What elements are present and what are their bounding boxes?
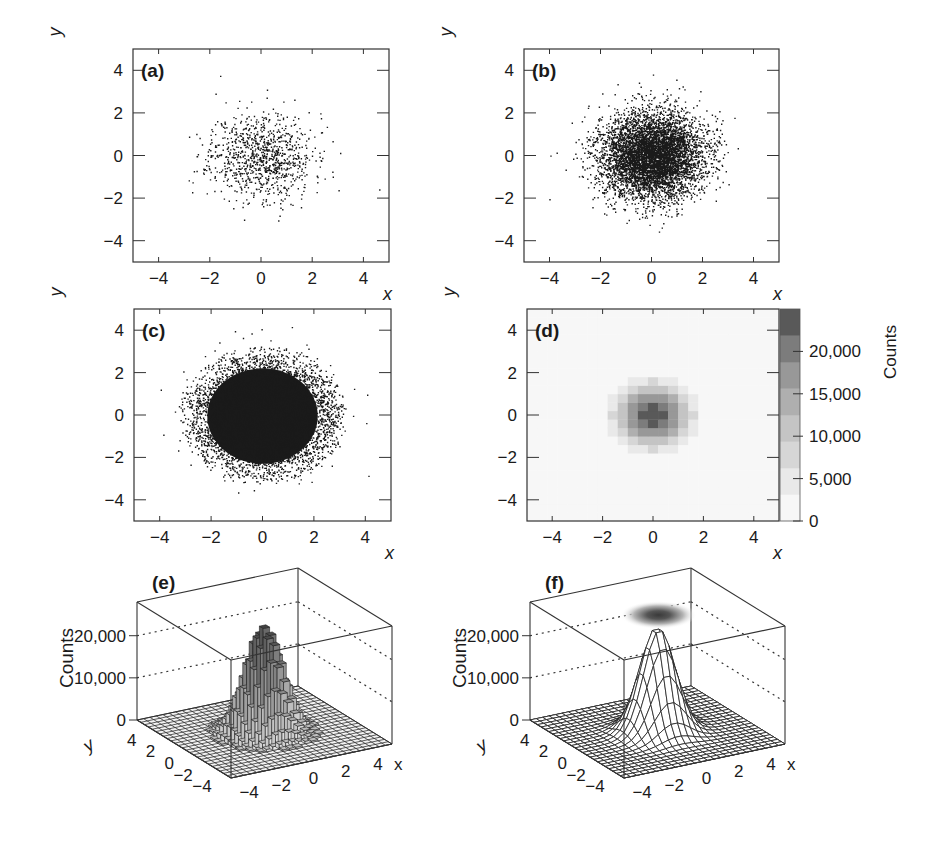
z-tick-label: 20,000 (467, 627, 519, 646)
scatter-points (189, 76, 381, 222)
y-axis-label: y (470, 734, 491, 757)
y-tick-label: −2 (566, 766, 585, 785)
x-tick-label: 0 (256, 269, 265, 288)
y-axis-label: y (77, 734, 98, 757)
y-axis-label: y (436, 27, 456, 39)
y-tick-label: −4 (495, 232, 514, 251)
plot-frame (133, 49, 389, 262)
heatmap-panel-d: −4−2024−4−2024(d)xy (439, 287, 783, 564)
x-tick-label: 0 (702, 769, 711, 788)
y-tick-label: 0 (114, 147, 123, 166)
y-tick-label: −2 (498, 448, 517, 467)
y-tick-label: 2 (539, 742, 548, 761)
y-tick-label: 4 (114, 61, 123, 80)
bar3d-panel-e: 010,00020,000Counts−4−2024x−4−2024y(e) (56, 568, 403, 802)
y-tick-label: 2 (115, 364, 124, 383)
y-tick-label: 2 (505, 104, 514, 123)
heatmap-cells (527, 309, 779, 521)
x-axis-label: x (772, 543, 783, 563)
x-tick-label: −4 (239, 783, 258, 802)
surface3d-panel-f: 010,00020,000Counts−4−2024x−4−2024y(f) (449, 568, 796, 802)
x-tick-label: 2 (309, 528, 318, 547)
x-tick-label: 2 (699, 528, 708, 547)
z-tick-label: 0 (117, 711, 126, 730)
scatter-points (549, 74, 739, 232)
x-tick-label: 2 (341, 762, 350, 781)
y-tick-label: 4 (505, 61, 514, 80)
x-tick-label: 4 (361, 528, 370, 547)
colorbar-level (780, 442, 800, 469)
x-axis-label: x (394, 755, 403, 774)
y-tick-label: 0 (508, 406, 517, 425)
colorbar-tick-label: 10,000 (809, 427, 861, 446)
top-density-projection (621, 601, 697, 629)
z-tick-label: 10,000 (467, 669, 519, 688)
y-tick-label: −4 (192, 777, 211, 796)
y-tick-label: 4 (508, 321, 517, 340)
x-axis-label: x (384, 543, 395, 563)
x-tick-label: 4 (749, 269, 758, 288)
x-tick-label: 4 (359, 269, 368, 288)
y-tick-label: −2 (104, 189, 123, 208)
panel-label: (b) (532, 60, 556, 81)
x-tick-label: −2 (593, 528, 612, 547)
x-tick-label: −2 (665, 776, 684, 795)
x-tick-label: −2 (272, 776, 291, 795)
y-tick-label: 2 (146, 742, 155, 761)
x-tick-label: −4 (543, 528, 562, 547)
x-tick-label: 0 (309, 769, 318, 788)
x-tick-label: −2 (201, 528, 220, 547)
colorbar-level (780, 468, 800, 495)
x-axis-label: x (787, 755, 796, 774)
x-tick-label: 4 (766, 755, 775, 774)
z-gridline (691, 644, 785, 702)
y-tick-label: 2 (114, 104, 123, 123)
z-axis-label: Counts (56, 628, 77, 688)
z-gridline (691, 602, 785, 660)
colorbar-level (780, 415, 800, 442)
x-tick-label: 2 (734, 762, 743, 781)
colorbar-level (780, 495, 800, 522)
z-gridline (298, 644, 392, 702)
y-tick-label: 4 (127, 731, 136, 750)
gaussian-surface (530, 629, 785, 778)
z-gridline (137, 602, 298, 636)
panel-label: (c) (142, 320, 165, 341)
y-axis-label: y (46, 287, 66, 299)
colorbar-tick-label: 15,000 (809, 385, 861, 404)
y-tick-label: 0 (558, 754, 567, 773)
y-tick-label: 2 (508, 364, 517, 383)
x-tick-label: 0 (258, 528, 267, 547)
panel-label: (e) (152, 572, 175, 593)
y-tick-label: −4 (104, 232, 123, 251)
x-tick-label: 0 (647, 269, 656, 288)
x-tick-label: 4 (749, 528, 758, 547)
y-axis-label: y (45, 27, 65, 39)
x-tick-label: −2 (200, 269, 219, 288)
scatter-panel-b: −4−2024−4−2024(b)xy (436, 27, 783, 305)
y-tick-label: −2 (495, 189, 514, 208)
y-axis-label: y (439, 287, 459, 299)
colorbar-level (780, 336, 800, 363)
z-tick-label: 10,000 (74, 669, 126, 688)
y-tick-label: 4 (520, 731, 529, 750)
z-tick-label: 0 (510, 711, 519, 730)
colorbar: 05,00010,00015,00020,000Counts (780, 309, 900, 531)
y-tick-label: 0 (505, 147, 514, 166)
x-tick-label: 0 (648, 528, 657, 547)
x-tick-label: 4 (373, 755, 382, 774)
colorbar-title: Counts (881, 325, 900, 379)
colorbar-tick-label: 5,000 (809, 470, 852, 489)
colorbar-level (780, 362, 800, 389)
z-gridline (298, 602, 392, 660)
z-tick-label: 20,000 (74, 627, 126, 646)
y-tick-label: 0 (165, 754, 174, 773)
y-tick-label: −4 (498, 491, 517, 510)
colorbar-tick-label: 20,000 (809, 342, 861, 361)
y-tick-label: 4 (115, 321, 124, 340)
panel-label: (a) (141, 60, 164, 81)
panel-label: (f) (545, 572, 564, 593)
scatter-panel-a: −4−2024−4−2024(a)xy (45, 27, 393, 305)
colorbar-level (780, 389, 800, 416)
scatter-points (161, 327, 370, 494)
